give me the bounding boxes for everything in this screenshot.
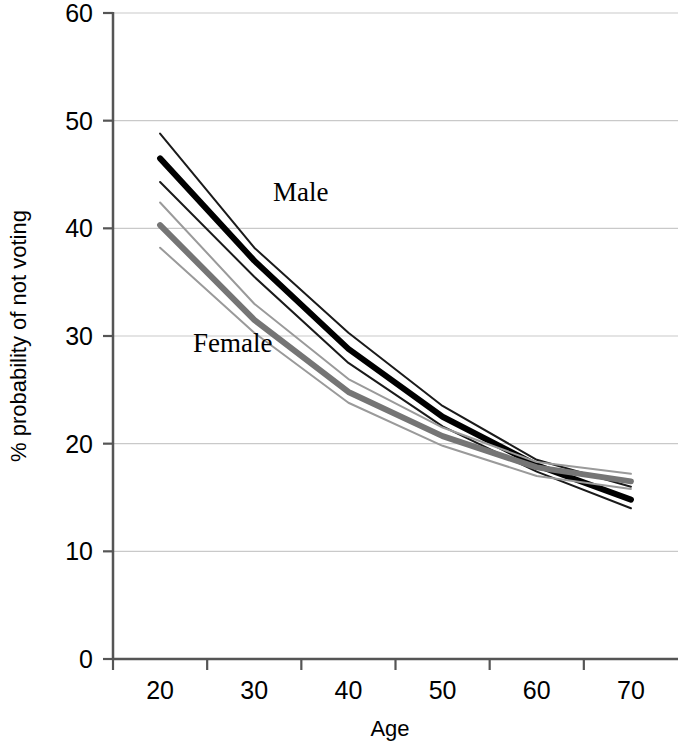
y-axis-tick-label: 40 <box>65 214 93 242</box>
x-axis-title: Age <box>370 716 409 741</box>
y-axis-tick-label: 60 <box>65 0 93 27</box>
x-axis-tick-label: 60 <box>523 676 551 704</box>
x-axis-tick-label: 50 <box>429 676 457 704</box>
y-axis-title: % probability of not voting <box>6 210 31 462</box>
y-axis-tick-label: 50 <box>65 107 93 135</box>
data-series-group <box>160 134 631 509</box>
y-axis-tick-label: 10 <box>65 537 93 565</box>
x-axis-tick-label: 70 <box>617 676 645 704</box>
x-axis-tick-label: 30 <box>240 676 268 704</box>
x-axis-tick-label: 20 <box>146 676 174 704</box>
chart-figure: 0102030405060 203040506070 MaleFemale Ag… <box>0 0 683 742</box>
series-label-female: Female <box>193 328 272 358</box>
y-axis-tick-labels: 0102030405060 <box>65 0 93 673</box>
series-label-male: Male <box>273 177 328 207</box>
x-axis-tick-labels: 203040506070 <box>146 676 645 704</box>
x-axis-ticks <box>113 659 584 670</box>
y-axis-tick-label: 0 <box>79 645 93 673</box>
y-axis-tick-label: 30 <box>65 322 93 350</box>
x-axis-tick-label: 40 <box>335 676 363 704</box>
line-chart-svg: 0102030405060 203040506070 MaleFemale Ag… <box>0 0 683 742</box>
y-axis-ticks <box>103 13 113 659</box>
y-axis-tick-label: 20 <box>65 430 93 458</box>
